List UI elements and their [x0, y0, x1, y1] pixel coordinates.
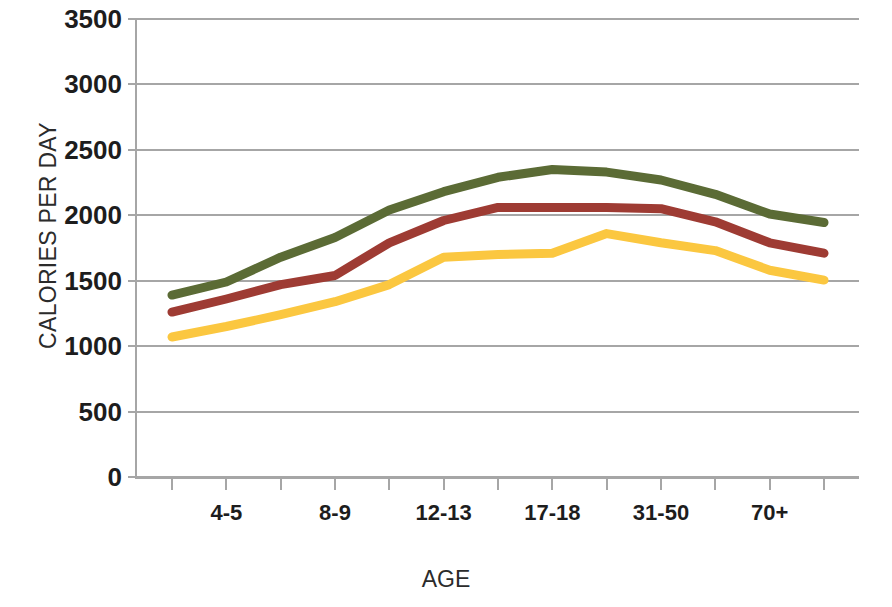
- x-tick-mark: [497, 479, 499, 490]
- x-tick-mark: [551, 479, 553, 490]
- y-tick-label: 1500: [4, 265, 122, 296]
- x-tick-mark: [660, 479, 662, 490]
- x-tick-mark: [823, 479, 825, 490]
- plot-area: [137, 19, 859, 477]
- x-tick-mark: [225, 479, 227, 490]
- x-tick-label: 4-5: [210, 500, 242, 526]
- y-tick-mark: [128, 18, 137, 20]
- y-tick-label: 3500: [4, 4, 122, 35]
- x-tick-mark: [171, 479, 173, 490]
- y-tick-mark: [128, 476, 137, 478]
- x-tick-mark: [769, 479, 771, 490]
- x-tick-mark: [443, 479, 445, 490]
- y-tick-label: 0: [4, 462, 122, 493]
- x-tick-label: 31-50: [633, 500, 689, 526]
- series-line-green-series: [172, 170, 824, 296]
- y-axis-tick-labels: 0500100015002000250030003500: [0, 0, 122, 607]
- x-tick-label: 70+: [751, 500, 788, 526]
- y-tick-mark: [128, 345, 137, 347]
- x-tick-mark: [714, 479, 716, 490]
- x-axis-title: AGE: [0, 566, 892, 593]
- x-tick-mark: [280, 479, 282, 490]
- y-tick-label: 500: [4, 396, 122, 427]
- x-tick-mark: [606, 479, 608, 490]
- x-tick-mark: [388, 479, 390, 490]
- y-tick-mark: [128, 280, 137, 282]
- y-tick-label: 3000: [4, 69, 122, 100]
- y-tick-label: 2500: [4, 134, 122, 165]
- y-tick-mark: [128, 83, 137, 85]
- x-tick-label: 12-13: [416, 500, 472, 526]
- y-tick-mark: [128, 149, 137, 151]
- line-chart: CALORIES PER DAY 05001000150020002500300…: [0, 0, 892, 607]
- y-tick-label: 1000: [4, 331, 122, 362]
- y-tick-mark: [128, 214, 137, 216]
- x-tick-label: 17-18: [524, 500, 580, 526]
- y-tick-label: 2000: [4, 200, 122, 231]
- x-tick-label: 8-9: [319, 500, 351, 526]
- y-tick-mark: [128, 411, 137, 413]
- series-lines: [137, 19, 859, 477]
- x-tick-mark: [334, 479, 336, 490]
